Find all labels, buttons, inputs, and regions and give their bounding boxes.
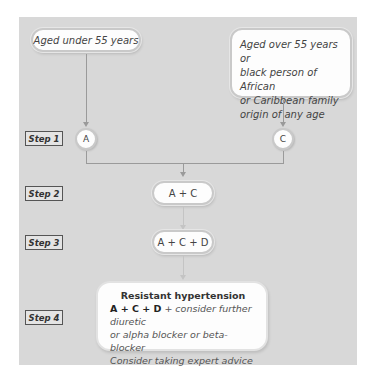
- final-drug-combo: A + C + D: [110, 303, 161, 314]
- group-under-55-label: Aged under 55 years: [34, 35, 139, 46]
- arrow-left-down: [83, 122, 89, 127]
- node-a-plus-c-label: A + C: [169, 188, 198, 199]
- step-1-label: Step 1: [25, 131, 63, 146]
- group-over-55-line-4: origin of any age: [240, 108, 342, 122]
- step-3-label: Step 3: [25, 235, 63, 250]
- node-a: A: [75, 128, 97, 150]
- group-under-55-box: Aged under 55 years: [31, 28, 141, 52]
- node-c: C: [272, 128, 294, 150]
- resistant-hypertension-box: Resistant hypertension A + C + D + consi…: [96, 281, 268, 351]
- step-4-label: Step 4: [25, 310, 63, 325]
- connector-step2-step3: [183, 207, 184, 227]
- resistant-hypertension-title: Resistant hypertension: [110, 289, 256, 302]
- arrow-to-step-2: [180, 172, 186, 177]
- node-c-label: C: [280, 134, 286, 144]
- connector-right-down: [283, 100, 284, 124]
- group-over-55-line-1: Aged over 55 years or: [240, 38, 342, 66]
- final-line-3: Consider taking expert advice: [110, 354, 256, 367]
- group-over-55-line-3: or Caribbean family: [240, 94, 342, 108]
- step-2-label: Step 2: [25, 186, 63, 201]
- final-line-1: A + C + D + consider further diuretic: [110, 302, 256, 328]
- node-a-label: A: [83, 134, 89, 144]
- final-line-2: or alpha blocker or beta-blocker: [110, 328, 256, 354]
- connector-merge: [86, 163, 284, 164]
- node-a-plus-c-plus-d: A + C + D: [152, 230, 214, 254]
- arrow-right-down: [280, 122, 286, 127]
- node-a-plus-c-plus-d-label: A + C + D: [158, 237, 209, 248]
- arrow-to-step-4: [180, 275, 186, 280]
- node-a-plus-c: A + C: [152, 181, 214, 205]
- group-over-55-line-2: black person of African: [240, 66, 342, 94]
- connector-left-down: [86, 54, 87, 124]
- group-over-55-box: Aged over 55 years or black person of Af…: [230, 28, 352, 98]
